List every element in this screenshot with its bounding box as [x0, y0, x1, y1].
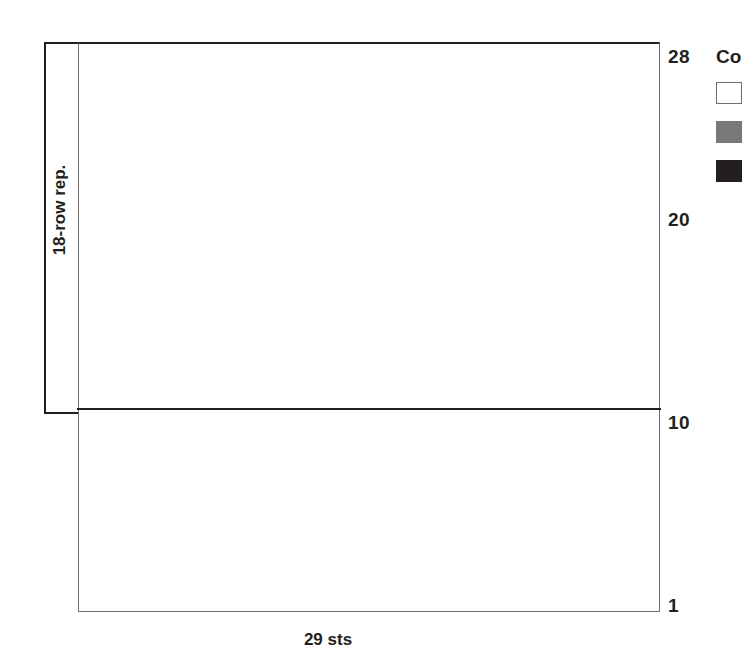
chart-grid-area [78, 42, 660, 612]
repeat-label: 18-row rep. [50, 130, 70, 290]
row-label-20: 20 [668, 209, 708, 231]
row-label-1: 1 [668, 595, 708, 617]
legend-swatch-gray-icon [716, 121, 742, 143]
stitch-grid [78, 42, 660, 612]
bracket-bottom-arm [44, 412, 78, 414]
legend-row-gray [716, 121, 746, 143]
repeat-boundary-line [77, 408, 661, 410]
bracket-top-arm [44, 42, 78, 44]
legend-swatch-white-icon [716, 82, 742, 104]
stitch-count-label: 29 sts [0, 630, 736, 650]
bracket-vertical-bar [44, 42, 46, 414]
legend-swatch-black-icon [716, 160, 742, 182]
legend-row-white [716, 82, 746, 104]
legend-title: Co [716, 46, 746, 68]
legend: Co [716, 46, 746, 199]
repeat-bracket: 18-row rep. [44, 42, 78, 414]
legend-row-black [716, 160, 746, 182]
row-label-28: 28 [668, 46, 708, 68]
row-label-10: 10 [668, 412, 708, 434]
